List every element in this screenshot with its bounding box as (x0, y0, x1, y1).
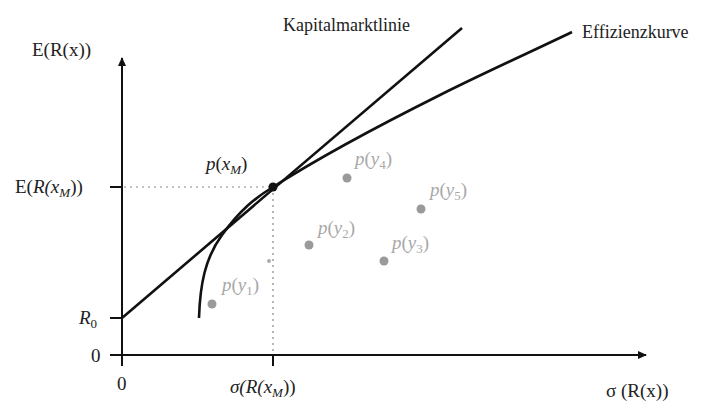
p1-p: p (222, 274, 232, 295)
sm-x: (x (257, 376, 272, 397)
em-post: )) (70, 176, 83, 197)
x-tick-zero-label: 0 (117, 374, 127, 393)
p1-close: ) (253, 274, 259, 295)
sm-pre: σ( (230, 376, 246, 397)
portfolio-point-y1 (208, 300, 217, 309)
mp-close: ) (241, 153, 247, 174)
x-axis-label: σ (R(x)) (606, 381, 668, 400)
portfolio-point-y4 (343, 174, 352, 183)
p4-close: ) (386, 148, 392, 169)
y-tick-market-label: E(R(xM)) (15, 177, 83, 199)
p2-p: p (318, 217, 328, 238)
p2-close: ) (349, 217, 355, 238)
capital-market-diagram: E(R(x)) σ (R(x)) 0 R0 E(R(xM)) 0 σ(R(xM)… (0, 0, 722, 416)
sm-r: R (246, 376, 258, 397)
p5-close: ) (461, 179, 467, 200)
portfolio-label-y5: p(y5) (430, 180, 467, 202)
market-portfolio-point (269, 183, 278, 192)
em-x: (x (45, 176, 60, 197)
y-tick-zero-label: 0 (91, 346, 101, 365)
x-tick-market-label: σ(R(xM)) (230, 377, 296, 399)
y-axis-label: E(R(x)) (32, 40, 91, 59)
em-r: R (33, 176, 45, 197)
mp-sub: M (230, 162, 241, 177)
portfolio-point-y5 (417, 205, 426, 214)
efficient-frontier-label: Effizienzkurve (582, 23, 689, 41)
portfolio-point-y3 (380, 257, 389, 266)
market-portfolio-label: p(MxM) (206, 154, 247, 176)
p4-p: p (355, 148, 365, 169)
em-sub: M (59, 185, 70, 200)
em-pre: E( (15, 176, 33, 197)
small-marker (267, 259, 271, 263)
portfolio-label-y1: p(y1) (222, 275, 259, 297)
portfolio-label-y4: p(y4) (355, 149, 392, 171)
capital-market-line (122, 28, 462, 318)
capital-market-line-label: Kapitalmarktlinie (283, 16, 410, 34)
portfolio-point-y2 (305, 241, 314, 250)
sm-sub: M (272, 385, 283, 400)
r0-main: R (79, 307, 91, 328)
diagram-canvas (0, 0, 722, 416)
sm-post: )) (283, 376, 296, 397)
portfolio-label-y2: p(y2) (318, 218, 355, 240)
portfolio-label-y3: p(y3) (392, 233, 429, 255)
y-tick-r0-label: R0 (79, 308, 97, 330)
p3-p: p (392, 232, 402, 253)
p3-close: ) (423, 232, 429, 253)
r0-sub: 0 (91, 316, 98, 331)
p5-p: p (430, 179, 440, 200)
mp-p: p (206, 153, 216, 174)
